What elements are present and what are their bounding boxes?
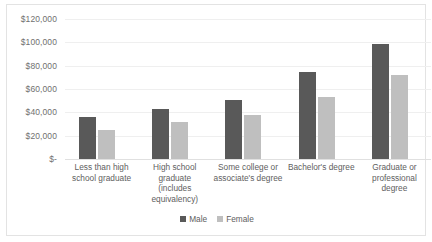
legend-label: Male bbox=[189, 214, 207, 224]
legend-entry-male[interactable]: Male bbox=[180, 214, 207, 224]
x-axis-category-label: Some college orassociate's degree bbox=[211, 162, 284, 183]
x-axis-category-label: Less than highschool graduate bbox=[65, 162, 138, 183]
bar-female[interactable] bbox=[318, 97, 335, 159]
x-axis-category-label: Bachelor's degree bbox=[285, 162, 358, 173]
x-axis-category-label: Graduate orprofessionaldegree bbox=[358, 162, 431, 194]
gridline bbox=[65, 159, 431, 160]
y-axis: $120,000$100,000$80,000$60,000$40,000$20… bbox=[7, 19, 61, 159]
x-axis-category-label: High schoolgraduate(includesequivalency) bbox=[138, 162, 211, 204]
legend-entry-female[interactable]: Female bbox=[217, 214, 254, 224]
bar-female[interactable] bbox=[98, 130, 115, 159]
x-axis-label-line: school graduate bbox=[65, 173, 138, 184]
y-axis-tick-label: $100,000 bbox=[21, 37, 57, 47]
x-axis-label-line: Less than high bbox=[65, 162, 138, 173]
x-axis-label-line: graduate bbox=[138, 173, 211, 184]
bar-group bbox=[358, 19, 431, 159]
bar-female[interactable] bbox=[244, 115, 261, 159]
y-axis-tick-label: $- bbox=[49, 154, 57, 164]
y-axis-tick-label: $40,000 bbox=[26, 107, 57, 117]
bar-male[interactable] bbox=[372, 44, 389, 160]
bar-female[interactable] bbox=[171, 122, 188, 159]
legend-swatch-icon bbox=[180, 216, 186, 222]
chart-legend: MaleFemale bbox=[7, 214, 427, 224]
bar-male[interactable] bbox=[79, 117, 96, 159]
y-axis-tick-label: $120,000 bbox=[21, 14, 57, 24]
x-axis-label-line: associate's degree bbox=[211, 173, 284, 184]
bars-layer bbox=[65, 19, 431, 159]
bar-group bbox=[285, 19, 358, 159]
x-axis-label-line: Bachelor's degree bbox=[285, 162, 358, 173]
x-axis-label-line: High school bbox=[138, 162, 211, 173]
bar-group bbox=[65, 19, 138, 159]
y-axis-tick-label: $80,000 bbox=[26, 61, 57, 71]
y-axis-tick-label: $20,000 bbox=[26, 131, 57, 141]
bar-group bbox=[138, 19, 211, 159]
x-axis-label-line: Graduate or bbox=[358, 162, 431, 173]
bar-male[interactable] bbox=[152, 109, 169, 159]
bar-male[interactable] bbox=[225, 100, 242, 160]
legend-swatch-icon bbox=[217, 216, 223, 222]
x-axis-label-line: equivalency) bbox=[138, 194, 211, 205]
bar-group bbox=[211, 19, 284, 159]
chart-container: $120,000$100,000$80,000$60,000$40,000$20… bbox=[6, 4, 426, 236]
x-axis-label-line: Some college or bbox=[211, 162, 284, 173]
bar-male[interactable] bbox=[299, 72, 316, 160]
x-axis-label-line: professional bbox=[358, 173, 431, 184]
bar-female[interactable] bbox=[391, 75, 408, 159]
x-axis-label-line: degree bbox=[358, 183, 431, 194]
x-axis: Less than highschool graduateHigh school… bbox=[65, 162, 431, 210]
legend-label: Female bbox=[226, 214, 254, 224]
y-axis-tick-label: $60,000 bbox=[26, 84, 57, 94]
x-axis-label-line: (includes bbox=[138, 183, 211, 194]
